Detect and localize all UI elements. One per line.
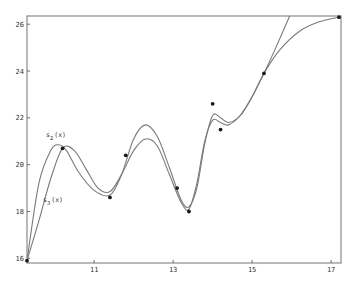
plot-frame — [27, 16, 341, 263]
data-point — [61, 146, 65, 150]
series-label-s2: s2(x) — [46, 131, 66, 141]
data-point — [108, 196, 112, 200]
axes: 11131517161820222426 — [16, 16, 341, 274]
data-point — [262, 71, 266, 75]
y-tick-label: 16 — [16, 255, 24, 263]
x-tick-label: 17 — [327, 266, 335, 274]
data-point — [25, 259, 29, 263]
curve-s2x — [27, 16, 290, 261]
data-point — [219, 128, 223, 132]
data-points — [25, 15, 341, 262]
y-tick-label: 24 — [16, 68, 24, 76]
data-point — [175, 186, 179, 190]
spline-curves — [27, 16, 339, 261]
y-tick-label: 18 — [16, 208, 24, 216]
spline-chart: 11131517161820222426 s2(x) s3(x) — [0, 0, 354, 282]
y-tick-label: 20 — [16, 161, 24, 169]
y-tick-label: 22 — [16, 114, 24, 122]
data-point — [337, 15, 341, 19]
x-tick-label: 15 — [248, 266, 256, 274]
x-tick-label: 11 — [90, 266, 98, 274]
y-tick-label: 26 — [16, 21, 24, 29]
x-tick-label: 13 — [169, 266, 177, 274]
data-point — [211, 102, 215, 106]
series-label-s3: s3(x) — [43, 196, 63, 206]
data-point — [187, 210, 191, 214]
data-point — [124, 153, 128, 157]
curve-s3x — [27, 17, 339, 260]
